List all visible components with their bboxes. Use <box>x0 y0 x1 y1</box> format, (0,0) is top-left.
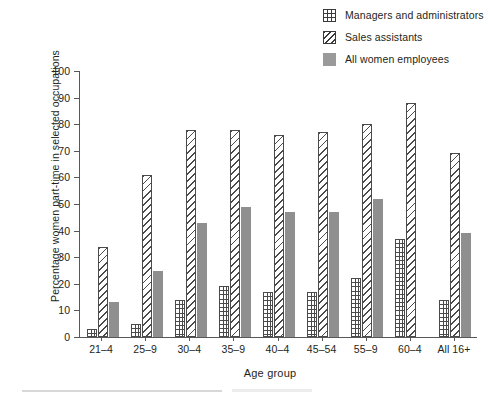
bar-sales <box>142 175 152 337</box>
bar-group <box>439 71 472 337</box>
bar-group <box>131 71 164 337</box>
chart-legend: Managers and administrators Sales assist… <box>323 9 484 66</box>
caption-divider-secondary <box>232 389 312 392</box>
y-tick-label: 100 <box>40 66 70 76</box>
solid-grey-swatch-icon <box>323 53 336 66</box>
bar-allwomen <box>373 199 383 337</box>
bar-group <box>395 71 428 337</box>
legend-label-all-women: All women employees <box>345 54 449 65</box>
caption-divider <box>22 390 222 392</box>
bar-managers <box>439 300 449 337</box>
y-tick-label: 0 <box>40 332 70 342</box>
y-tick-label: 40 <box>40 226 70 236</box>
y-tick-label: 50 <box>40 199 70 209</box>
bar-sales <box>406 103 416 337</box>
y-tick-label: 30 <box>40 252 70 262</box>
y-tick-label: 70 <box>40 146 70 156</box>
bar-managers <box>351 278 361 337</box>
x-tick-mark <box>101 337 102 341</box>
diagonal-hatch-swatch-icon <box>323 31 336 44</box>
bar-managers <box>131 324 141 337</box>
bar-allwomen <box>329 212 339 337</box>
y-tick-label: 60 <box>40 172 70 182</box>
x-tick-mark <box>366 337 367 341</box>
x-tick-mark <box>189 337 190 341</box>
plot-area <box>79 71 476 337</box>
bar-allwomen <box>241 207 251 337</box>
legend-item-sales: Sales assistants <box>323 31 484 44</box>
y-tick-mark <box>74 337 79 338</box>
y-tick-label: 20 <box>40 279 70 289</box>
bar-sales <box>362 124 372 337</box>
x-tick-mark <box>233 337 234 341</box>
bar-allwomen <box>197 223 207 337</box>
bar-sales <box>186 130 196 337</box>
bar-sales <box>274 135 284 337</box>
x-tick-mark <box>145 337 146 341</box>
bar-allwomen <box>461 233 471 337</box>
legend-item-managers: Managers and administrators <box>323 9 484 22</box>
y-tick-label: 90 <box>40 93 70 103</box>
bar-chart-figure: Managers and administrators Sales assist… <box>0 0 490 399</box>
x-axis-title: Age group <box>60 367 480 379</box>
legend-label-sales: Sales assistants <box>345 32 422 43</box>
bar-group <box>263 71 296 337</box>
bar-group <box>175 71 208 337</box>
bar-sales <box>450 153 460 337</box>
bar-allwomen <box>109 302 119 337</box>
bar-group <box>351 71 384 337</box>
bar-managers <box>219 286 229 337</box>
x-tick-label: All 16+ <box>424 344 484 355</box>
bar-managers <box>175 300 185 337</box>
bar-sales <box>230 130 240 337</box>
grid-hatch-swatch-icon <box>323 9 336 22</box>
x-tick-mark <box>410 337 411 341</box>
bar-group <box>87 71 120 337</box>
bar-managers <box>307 292 317 337</box>
x-tick-mark <box>278 337 279 341</box>
x-tick-mark <box>322 337 323 341</box>
legend-label-managers: Managers and administrators <box>345 10 484 21</box>
bar-managers <box>395 239 405 337</box>
bar-managers <box>87 329 97 337</box>
bar-sales <box>318 132 328 337</box>
y-tick-label: 80 <box>40 119 70 129</box>
x-tick-mark <box>454 337 455 341</box>
bar-group <box>307 71 340 337</box>
bar-managers <box>263 292 273 337</box>
bar-group <box>219 71 252 337</box>
y-tick-label: 10 <box>40 305 70 315</box>
legend-item-all-women: All women employees <box>323 53 484 66</box>
bar-allwomen <box>285 212 295 337</box>
bar-allwomen <box>153 271 163 338</box>
bar-sales <box>98 247 108 337</box>
